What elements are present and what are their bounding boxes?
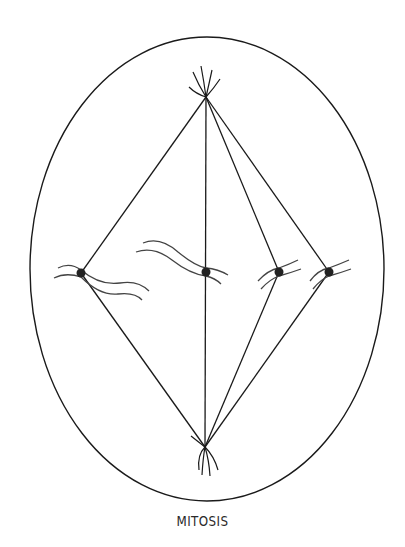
chromosome-3	[258, 260, 301, 289]
spindle-fiber-left-top	[81, 97, 206, 273]
centromere-4	[325, 268, 334, 277]
centromere-2	[202, 268, 211, 277]
spindle-fiber-4-bottom	[205, 272, 329, 447]
centromere-1	[77, 269, 86, 278]
chromosome-4	[310, 260, 351, 289]
centromere-3	[275, 268, 284, 277]
mitosis-diagram	[0, 0, 405, 547]
top-aster-icon	[189, 66, 220, 97]
spindle-fiber-left-bottom	[81, 273, 205, 447]
diagram-caption: MITOSIS	[30, 513, 374, 529]
chromosome-1	[54, 265, 149, 300]
chromosome-2	[136, 241, 228, 284]
spindle-fiber-3-bottom	[205, 272, 279, 447]
